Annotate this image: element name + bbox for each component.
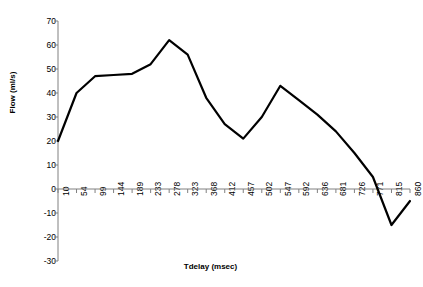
flow-series-line: [58, 40, 410, 225]
x-axis-title: Tdelay (msec): [0, 262, 421, 271]
